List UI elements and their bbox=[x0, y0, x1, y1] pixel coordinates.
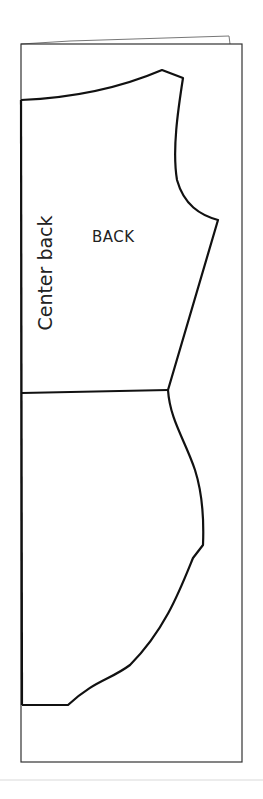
center-back-line bbox=[21, 100, 22, 705]
piece-label: BACK bbox=[92, 228, 135, 246]
page-divider bbox=[0, 779, 263, 781]
center-back-label: Center back bbox=[34, 208, 56, 338]
paper-fold-edge bbox=[21, 36, 230, 44]
pattern-drawing bbox=[0, 0, 263, 799]
skirt-outline bbox=[22, 390, 203, 705]
waistline bbox=[22, 390, 168, 393]
frame-border bbox=[21, 44, 242, 762]
